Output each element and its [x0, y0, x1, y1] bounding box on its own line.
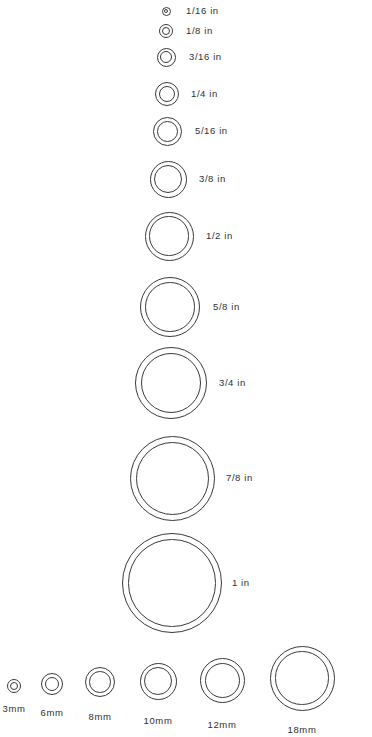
imperial-3-8-in-ring: [150, 161, 187, 198]
imperial-1-8-in-ring-inner-circle: [162, 27, 170, 35]
imperial-3-4-in-ring: [135, 347, 207, 419]
imperial-3-16-in-ring: [157, 48, 176, 67]
imperial-3-4-in-ring-inner-circle: [141, 353, 202, 414]
metric-10mm-label: 10mm: [144, 716, 173, 726]
imperial-1-in-ring: [122, 533, 222, 633]
imperial-7-8-in-label: 7/8 in: [226, 473, 253, 483]
imperial-1-2-in-label: 1/2 in: [206, 231, 233, 241]
imperial-1-2-in-ring: [145, 212, 194, 261]
imperial-1-4-in-ring: [155, 82, 179, 106]
metric-18mm-ring-inner-circle: [275, 651, 328, 704]
metric-6mm-ring: [41, 673, 63, 695]
imperial-5-8-in-ring: [140, 277, 200, 337]
imperial-5-16-in-label: 5/16 in: [195, 126, 228, 136]
imperial-5-8-in-ring-inner-circle: [145, 282, 195, 332]
imperial-1-in-label: 1 in: [232, 578, 250, 588]
metric-18mm-ring: [270, 646, 335, 711]
imperial-3-4-in-label: 3/4 in: [219, 378, 246, 388]
metric-3mm-ring: [7, 679, 21, 693]
metric-18mm-label: 18mm: [288, 725, 317, 735]
imperial-1-8-in-ring: [159, 24, 173, 38]
imperial-3-8-in-label: 3/8 in: [199, 174, 226, 184]
grommet-size-chart: 1/16 in1/8 in3/16 in1/4 in5/16 in3/8 in1…: [0, 0, 372, 737]
metric-10mm-ring-inner-circle: [144, 667, 172, 695]
imperial-3-8-in-ring-inner-circle: [154, 165, 182, 193]
imperial-3-16-in-label: 3/16 in: [189, 52, 222, 62]
imperial-1-8-in-label: 1/8 in: [186, 26, 213, 36]
metric-12mm-ring-inner-circle: [205, 663, 240, 698]
imperial-5-16-in-ring: [153, 117, 182, 146]
imperial-7-8-in-ring-inner-circle: [136, 442, 209, 515]
metric-8mm-label: 8mm: [89, 712, 112, 722]
imperial-7-8-in-ring: [130, 436, 215, 521]
imperial-1-4-in-ring-inner-circle: [159, 86, 175, 102]
imperial-1-16-in-ring-inner-circle: [164, 9, 168, 13]
metric-10mm-ring: [140, 663, 177, 700]
metric-3mm-ring-inner-circle: [10, 682, 18, 690]
imperial-5-8-in-label: 5/8 in: [213, 302, 240, 312]
metric-6mm-ring-inner-circle: [45, 677, 59, 691]
imperial-1-16-in-ring: [162, 7, 171, 16]
metric-8mm-ring: [85, 667, 115, 697]
imperial-1-16-in-label: 1/16 in: [186, 6, 219, 16]
metric-6mm-label: 6mm: [41, 708, 64, 718]
metric-8mm-ring-inner-circle: [89, 671, 111, 693]
metric-12mm-ring: [200, 658, 245, 703]
imperial-3-16-in-ring-inner-circle: [160, 51, 172, 63]
imperial-5-16-in-ring-inner-circle: [157, 121, 178, 142]
metric-3mm-label: 3mm: [3, 704, 26, 714]
imperial-1-2-in-ring-inner-circle: [149, 216, 188, 255]
metric-12mm-label: 12mm: [208, 720, 237, 730]
imperial-1-4-in-label: 1/4 in: [191, 89, 218, 99]
imperial-1-in-ring-inner-circle: [128, 539, 215, 626]
